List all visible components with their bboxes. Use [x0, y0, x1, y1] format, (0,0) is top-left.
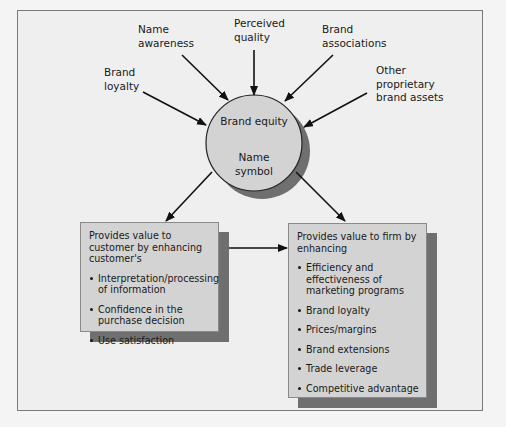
list-item: Brand loyalty — [297, 305, 420, 317]
label-line: awareness — [138, 37, 194, 51]
list-item: Prices/margins — [297, 324, 420, 336]
list-item: Use satisfaction — [89, 335, 212, 347]
brand-equity-subtitle: Name symbol — [206, 151, 302, 178]
label-line: Other — [376, 64, 444, 78]
firm-value-box: Provides value to firm by enhancing Effi… — [288, 223, 427, 398]
list-item: Trade leverage — [297, 363, 420, 375]
subtitle-line: symbol — [206, 165, 302, 179]
arrow-brand-associations — [285, 55, 333, 101]
list-item: Brand extensions — [297, 344, 420, 356]
label-line: Perceived — [234, 17, 285, 31]
list-item: Efficiency and effectiveness of marketin… — [297, 262, 420, 297]
label-line: brand assets — [376, 91, 444, 105]
label-perceived-quality: Perceived quality — [234, 17, 285, 44]
arrow-other-proprietary — [304, 93, 367, 127]
list-item: Interpretation/processing of information — [89, 273, 212, 296]
arrow-to-customer-box — [166, 172, 212, 221]
label-brand-associations: Brand associations — [322, 23, 387, 50]
label-brand-loyalty: Brand loyalty — [104, 66, 139, 93]
label-line: quality — [234, 31, 285, 45]
firm-box-intro: Provides value to firm by enhancing — [297, 231, 420, 254]
label-line: associations — [322, 37, 387, 51]
label-line: loyalty — [104, 80, 139, 94]
label-other-proprietary-brand-assets: Other proprietary brand assets — [376, 64, 444, 105]
subtitle-line: Name — [206, 151, 302, 165]
brand-equity-title: Brand equity — [206, 115, 302, 129]
label-line: Brand — [322, 23, 387, 37]
label-line: proprietary — [376, 78, 444, 92]
arrow-name-awareness — [182, 55, 228, 100]
label-line: Name — [138, 23, 194, 37]
customer-box-intro: Provides value to customer by enhancing … — [89, 230, 212, 265]
firm-benefit-list: Efficiency and effectiveness of marketin… — [297, 262, 420, 394]
label-name-awareness: Name awareness — [138, 23, 194, 50]
list-item: Confidence in the purchase decision — [89, 304, 212, 327]
label-line: Brand — [104, 66, 139, 80]
arrow-to-firm-box — [296, 172, 345, 221]
customer-value-box: Provides value to customer by enhancing … — [80, 222, 219, 332]
list-item: Competitive advantage — [297, 383, 420, 395]
arrow-brand-loyalty — [143, 92, 206, 125]
customer-benefit-list: Interpretation/processing of information… — [89, 273, 212, 347]
